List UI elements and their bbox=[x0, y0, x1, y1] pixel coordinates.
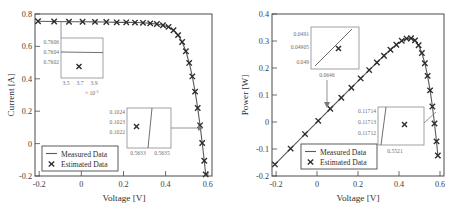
data-point-marker bbox=[366, 67, 371, 72]
iv-y-axis: 0.8 0.6 0.4 0.2 0 -0.2 bbox=[19, 10, 40, 181]
iv-ytick-2: 0.4 bbox=[22, 75, 32, 84]
data-point-marker bbox=[388, 47, 393, 52]
pv-inset2-ylabel-0: 0.11714 bbox=[358, 108, 376, 114]
iv-inset2-xlabel-0: 0.5633 bbox=[130, 150, 146, 156]
pv-inset2-ylabel-1: 0.11713 bbox=[358, 119, 376, 125]
data-point-marker bbox=[328, 106, 333, 111]
iv-xtick-3: 0.4 bbox=[160, 180, 170, 189]
iv-x-axis: -0.2 0 0.2 0.4 0.6 bbox=[33, 171, 213, 189]
iv-inset-isc: 0.7606 0.7604 0.7602 3.5 3.7 3.9 × 10-3 bbox=[44, 22, 103, 96]
pv-xtick-4: 0.6 bbox=[435, 180, 445, 189]
pv-ylabel: Power [W] bbox=[240, 75, 250, 116]
iv-inset1-ylabel-1: 0.7604 bbox=[44, 49, 60, 55]
iv-ytick-5: -0.2 bbox=[19, 172, 32, 181]
iv-ytick-1: 0.6 bbox=[22, 42, 32, 51]
pv-ytick-5: -0.1 bbox=[256, 145, 269, 154]
data-point-marker bbox=[272, 162, 277, 167]
iv-legend-estimated: Estimated Data bbox=[61, 160, 108, 169]
iv-legend: Measured Data Estimated Data bbox=[42, 146, 118, 171]
iv-inset-knee: 0.1024 0.1023 0.1022 0.5633 0.5635 bbox=[110, 108, 203, 156]
pv-ytick-4: 0 bbox=[265, 118, 269, 127]
iv-xtick-1: 0 bbox=[79, 180, 83, 189]
pv-legend-estimated: Estimated Data bbox=[320, 158, 367, 167]
pv-chart-svg: 0.4 0.3 0.2 0.1 0 -0.1 -0.2 -0.2 0 0.2 0… bbox=[232, 0, 464, 218]
pv-ytick-1: 0.3 bbox=[259, 37, 269, 46]
data-point-marker bbox=[374, 60, 379, 65]
pv-legend: Measured Data Estimated Data bbox=[301, 144, 377, 169]
data-point-marker bbox=[358, 76, 363, 81]
pv-ytick-0: 0.4 bbox=[259, 10, 269, 19]
pv-xtick-0: -0.2 bbox=[270, 180, 283, 189]
pv-inset-low-power: 0.0491 0.04905 0.049 0.0646 bbox=[291, 27, 359, 108]
iv-inset2-xlabel-1: 0.5635 bbox=[154, 150, 170, 156]
iv-inset1-ylabel-0: 0.7606 bbox=[44, 39, 60, 45]
iv-xlabel: Voltage [V] bbox=[103, 193, 146, 203]
data-point-marker bbox=[394, 42, 399, 47]
panel-pv-curve: 0.4 0.3 0.2 0.1 0 -0.1 -0.2 -0.2 0 0.2 0… bbox=[232, 0, 464, 218]
iv-chart-svg: 0.8 0.6 0.4 0.2 0 -0.2 -0.2 0 0.2 0.4 0.… bbox=[0, 0, 232, 218]
pv-ytick-3: 0.1 bbox=[259, 91, 269, 100]
iv-legend-measured: Measured Data bbox=[61, 150, 108, 159]
pv-ytick-6: -0.2 bbox=[256, 172, 269, 181]
iv-xtick-0: -0.2 bbox=[33, 180, 46, 189]
iv-inset1-exponent: × 10-3 bbox=[85, 89, 99, 96]
iv-inset1-xlabel-2: 3.9 bbox=[91, 80, 98, 86]
pv-inset2-ylabel-2: 0.11712 bbox=[358, 130, 376, 136]
iv-xtick-2: 0.2 bbox=[118, 180, 128, 189]
figure-iv-pv-curves: 0.8 0.6 0.4 0.2 0 -0.2 -0.2 0 0.2 0.4 0.… bbox=[0, 0, 464, 218]
data-point-marker bbox=[416, 43, 421, 48]
iv-xtick-4: 0.6 bbox=[203, 180, 213, 189]
pv-inset1-ylabel-1: 0.04905 bbox=[291, 44, 309, 50]
iv-ytick-3: 0.2 bbox=[22, 107, 32, 116]
iv-ylabel: Current [A] bbox=[6, 73, 16, 116]
iv-inset1-xlabel-0: 3.5 bbox=[63, 80, 70, 86]
pv-y-axis: 0.4 0.3 0.2 0.1 0 -0.1 -0.2 bbox=[256, 10, 277, 181]
pv-ytick-2: 0.2 bbox=[259, 64, 269, 73]
data-point-marker bbox=[349, 85, 354, 90]
pv-xtick-2: 0.2 bbox=[353, 180, 363, 189]
data-point-marker bbox=[179, 39, 184, 44]
pv-legend-measured: Measured Data bbox=[320, 148, 367, 157]
pv-xlabel: Voltage [V] bbox=[337, 193, 380, 203]
iv-inset1-ylabel-2: 0.7602 bbox=[44, 59, 60, 65]
panel-iv-curve: 0.8 0.6 0.4 0.2 0 -0.2 -0.2 0 0.2 0.4 0.… bbox=[0, 0, 232, 218]
data-point-marker bbox=[171, 28, 176, 33]
data-point-marker bbox=[175, 32, 180, 37]
data-point-marker bbox=[339, 95, 344, 100]
pv-xtick-3: 0.4 bbox=[394, 180, 404, 189]
data-point-marker bbox=[302, 131, 307, 136]
iv-inset2-ylabel-0: 0.1024 bbox=[110, 109, 126, 115]
iv-ytick-0: 0.8 bbox=[22, 10, 32, 19]
pv-inset1-ylabel-2: 0.049 bbox=[296, 59, 309, 65]
data-point-marker bbox=[381, 53, 386, 58]
pv-inset1-ylabel-0: 0.0491 bbox=[294, 31, 310, 37]
iv-inset1-xlabel-1: 3.7 bbox=[77, 80, 84, 86]
data-point-marker bbox=[316, 118, 321, 123]
pv-inset1-xlabel-0: 0.0646 bbox=[319, 72, 335, 78]
pv-x-axis: -0.2 0 0.2 0.4 0.6 bbox=[270, 171, 446, 189]
iv-ytick-4: 0 bbox=[28, 140, 32, 149]
pv-inset2-xlabel-0: 0.5521 bbox=[387, 148, 403, 154]
iv-inset2-ylabel-2: 0.1022 bbox=[110, 129, 126, 135]
data-point-marker bbox=[288, 146, 293, 151]
pv-xtick-1: 0 bbox=[315, 180, 319, 189]
iv-inset2-ylabel-1: 0.1023 bbox=[110, 119, 126, 125]
